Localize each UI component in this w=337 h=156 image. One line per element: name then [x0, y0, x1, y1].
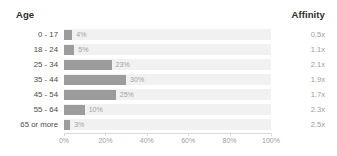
bar: [64, 120, 70, 130]
chart-row: 35 - 4430%1.9x: [0, 73, 337, 88]
bar-value-label: 5%: [78, 44, 88, 55]
row-label-age-bracket: 65 or more: [0, 119, 58, 130]
chart-row: 25 - 3423%2.1x: [0, 58, 337, 73]
row-label-age-bracket: 35 - 44: [0, 74, 58, 85]
row-band: [64, 119, 271, 130]
bar: [64, 75, 126, 85]
chart-row: 65 or more3%2.5x: [0, 118, 337, 133]
row-label-age-bracket: 0 - 17: [0, 29, 58, 40]
column-header-age: Age: [16, 9, 34, 20]
row-band: [64, 29, 271, 40]
chart-rows: 0 - 174%0.5x18 - 245%1.1x25 - 3423%2.1x3…: [0, 28, 337, 133]
bar-value-label: 23%: [116, 59, 130, 70]
chart-row: 55 - 6410%2.3x: [0, 103, 337, 118]
x-axis-tick-label: 80%: [223, 137, 237, 144]
bar-value-label: 4%: [76, 29, 86, 40]
affinity-value: 2.1x: [311, 59, 325, 70]
x-axis-tick-mark: [230, 133, 231, 136]
chart-row: 45 - 5425%1.7x: [0, 88, 337, 103]
x-axis-tick-label: 0%: [59, 137, 69, 144]
row-label-age-bracket: 18 - 24: [0, 44, 58, 55]
x-axis-tick-label: 20%: [98, 137, 112, 144]
affinity-value: 2.3x: [311, 104, 325, 115]
x-axis-tick-mark: [147, 133, 148, 136]
chart-row: 0 - 174%0.5x: [0, 28, 337, 43]
chart-row: 18 - 245%1.1x: [0, 43, 337, 58]
x-axis-tick-mark: [188, 133, 189, 136]
affinity-value: 0.5x: [311, 29, 325, 40]
x-axis-line: [64, 133, 272, 134]
x-axis-tick-mark: [64, 133, 65, 136]
bar-value-label: 10%: [89, 104, 103, 115]
row-band: [64, 44, 271, 55]
x-axis-tick-label: 60%: [181, 137, 195, 144]
row-label-age-bracket: 25 - 34: [0, 59, 58, 70]
bar-value-label: 25%: [120, 89, 134, 100]
column-header-affinity: Affinity: [291, 9, 325, 20]
affinity-value: 1.7x: [311, 89, 325, 100]
bar: [64, 60, 112, 70]
bar-value-label: 30%: [130, 74, 144, 85]
x-axis-tick-mark: [271, 133, 272, 136]
x-axis-tick-mark: [105, 133, 106, 136]
affinity-value: 1.9x: [311, 74, 325, 85]
bar: [64, 45, 74, 55]
row-label-age-bracket: 55 - 64: [0, 104, 58, 115]
x-axis-tick-label: 100%: [262, 137, 280, 144]
bar: [64, 30, 72, 40]
bar: [64, 105, 85, 115]
bar: [64, 90, 116, 100]
x-axis: 0%20%40%60%80%100%: [0, 133, 337, 153]
row-label-age-bracket: 45 - 54: [0, 89, 58, 100]
affinity-value: 1.1x: [311, 44, 325, 55]
affinity-value: 2.5x: [311, 119, 325, 130]
age-affinity-bar-chart: Age Affinity 0 - 174%0.5x18 - 245%1.1x25…: [0, 0, 337, 156]
bar-value-label: 3%: [74, 119, 84, 130]
x-axis-tick-label: 40%: [140, 137, 154, 144]
